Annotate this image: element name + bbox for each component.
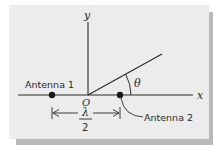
denominator-two: 2 bbox=[82, 122, 88, 133]
angle-arc bbox=[126, 74, 132, 95]
lambda-numerator: λ bbox=[81, 106, 89, 119]
antenna-1-dot bbox=[49, 92, 55, 98]
antenna-2-label: Antenna 2 bbox=[144, 112, 193, 123]
theta-label: θ bbox=[134, 77, 141, 90]
direction-ray bbox=[88, 54, 162, 95]
y-axis-label: y bbox=[83, 9, 91, 22]
x-axis-label: x bbox=[197, 89, 204, 102]
antenna-2-leader bbox=[121, 98, 143, 117]
antenna-diagram: x y O θ Antenna 1 Antenna 2 λ 2 bbox=[0, 0, 224, 152]
antenna-1-label: Antenna 1 bbox=[25, 79, 74, 90]
antenna-2-dot bbox=[117, 92, 123, 98]
